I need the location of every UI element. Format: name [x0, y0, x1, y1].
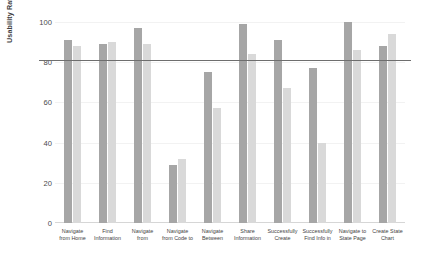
x-axis-category-label: Navigate to State Page	[335, 228, 370, 242]
x-axis-category-label: Successfully Create	[265, 228, 300, 242]
bar	[248, 54, 256, 223]
bar	[204, 72, 212, 223]
bar	[73, 46, 81, 223]
bar	[379, 46, 387, 223]
bar-group	[195, 22, 230, 223]
y-axis-tick-label: 80	[44, 58, 52, 67]
y-axis-tick-label: 40	[44, 138, 52, 147]
bar	[178, 159, 186, 223]
x-axis-category-label: Navigate Between	[195, 228, 230, 242]
bar-group	[55, 22, 90, 223]
bar	[283, 88, 291, 223]
bar-group	[160, 22, 195, 223]
bar	[353, 50, 361, 223]
bar	[64, 40, 72, 223]
bar	[99, 44, 107, 223]
bar-group	[230, 22, 265, 223]
y-axis-tick-labels: 020406080100	[26, 22, 52, 223]
bar	[344, 22, 352, 223]
y-axis-title: Usability Rating	[5, 0, 14, 70]
x-axis-category-label: Navigate from Code to	[160, 228, 195, 242]
x-axis-category-label: Find Information	[90, 228, 125, 242]
x-axis-category-label: Share Information	[230, 228, 265, 242]
bar	[143, 44, 151, 223]
y-axis-tick-label: 60	[44, 98, 52, 107]
bar-group	[370, 22, 405, 223]
bar	[388, 34, 396, 223]
x-axis-category-label: Successfully Find Info in	[300, 228, 335, 242]
y-axis-tick-label: 100	[39, 18, 52, 27]
bar-group	[125, 22, 160, 223]
bar	[239, 24, 247, 223]
bar-group	[265, 22, 300, 223]
x-axis-category-labels: Navigate from HomeFind InformationNaviga…	[55, 228, 405, 242]
bar	[169, 165, 177, 223]
bar	[213, 108, 221, 223]
bar-group	[90, 22, 125, 223]
bar	[309, 68, 317, 223]
plot-area	[55, 22, 405, 223]
x-axis-category-label: Create State Chart	[370, 228, 405, 242]
threshold-reference-line	[39, 60, 411, 61]
x-axis-category-label: Navigate from Home	[55, 228, 90, 242]
bar	[134, 28, 142, 223]
usability-rating-bar-chart: Usability Rating 020406080100 Navigate f…	[0, 0, 426, 266]
y-axis-tick-label: 0	[48, 219, 52, 228]
bar	[318, 143, 326, 223]
bar	[274, 40, 282, 223]
bar-group	[300, 22, 335, 223]
bar-groups	[55, 22, 405, 223]
bar-group	[335, 22, 370, 223]
x-axis-category-label: Navigate from	[125, 228, 160, 242]
y-axis-tick-label: 20	[44, 178, 52, 187]
bar	[108, 42, 116, 223]
